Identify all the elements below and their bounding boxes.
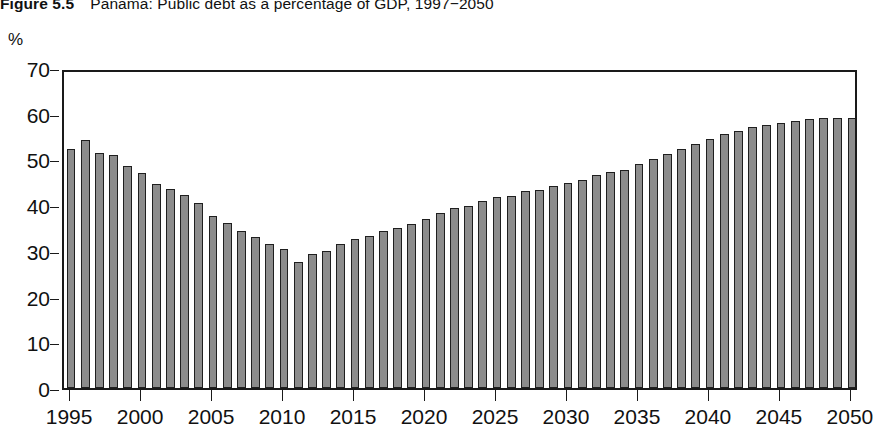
bar <box>734 131 743 388</box>
bar <box>578 180 587 388</box>
bar <box>95 153 104 388</box>
bar <box>166 189 175 388</box>
x-axis-tick-label: 2045 <box>756 404 803 430</box>
bar <box>777 123 786 388</box>
bar <box>606 172 615 388</box>
bar <box>564 183 573 388</box>
bar <box>748 127 757 388</box>
bar <box>407 224 416 388</box>
plot-area <box>62 70 857 390</box>
x-axis-tick-label: 2000 <box>117 404 164 430</box>
x-axis-tick <box>708 390 709 401</box>
x-axis-tick <box>140 390 141 401</box>
y-axis-tick-label: 0 <box>4 379 50 400</box>
x-axis-tick <box>495 390 496 401</box>
y-axis-tick-label: 40 <box>4 196 50 217</box>
y-axis-tick-label: 70 <box>4 59 50 80</box>
bar <box>535 190 544 388</box>
y-axis-tick <box>50 207 59 208</box>
x-axis-tick <box>282 390 283 401</box>
y-axis-tick <box>50 390 59 391</box>
bar <box>691 144 700 388</box>
bar <box>194 203 203 388</box>
y-axis-tick <box>50 299 59 300</box>
x-axis-tick <box>779 390 780 401</box>
bar <box>109 155 118 388</box>
bar <box>81 140 90 388</box>
y-axis-tick <box>50 253 59 254</box>
bar <box>819 118 828 388</box>
y-axis-tick <box>50 344 59 345</box>
figure-title: Figure 5.5Panama: Public debt as a perce… <box>0 0 865 15</box>
figure-number: Figure 5.5 <box>0 0 74 12</box>
bar <box>635 164 644 388</box>
x-axis-tick-label: 2025 <box>472 404 519 430</box>
bar <box>351 239 360 388</box>
bar <box>706 139 715 388</box>
x-axis-labels: 1995200020052010201520202025203020352040… <box>0 404 865 434</box>
x-axis-tick-label: 2010 <box>259 404 306 430</box>
y-axis-tick <box>50 116 59 117</box>
x-axis-tick-label: 2035 <box>614 404 661 430</box>
bar <box>464 206 473 388</box>
bar <box>123 166 132 388</box>
bar <box>805 119 814 388</box>
y-axis-tick <box>50 161 59 162</box>
figure-title-text: Panama: Public debt as a percentage of G… <box>90 0 494 12</box>
bar <box>237 231 246 388</box>
x-axis-tick <box>353 390 354 401</box>
bar <box>393 228 402 388</box>
x-axis-tick <box>850 390 851 401</box>
bar <box>649 159 658 388</box>
bar <box>833 118 842 388</box>
bar <box>436 213 445 388</box>
bar <box>663 154 672 389</box>
x-axis-tick <box>69 390 70 401</box>
x-axis-tick-label: 2050 <box>827 404 873 430</box>
bar <box>265 244 274 388</box>
y-axis-tick-label: 50 <box>4 150 50 171</box>
bar <box>138 173 147 388</box>
bar <box>620 170 629 389</box>
bar <box>450 208 459 388</box>
bar <box>848 118 856 388</box>
x-axis-tick-label: 2030 <box>543 404 590 430</box>
bar <box>308 254 317 388</box>
x-axis-tick <box>566 390 567 401</box>
x-axis-tick <box>637 390 638 401</box>
bar <box>478 201 487 388</box>
x-axis-ticks <box>62 390 857 402</box>
bar <box>549 186 558 389</box>
x-axis-tick <box>211 390 212 401</box>
bar <box>677 149 686 388</box>
x-axis-tick-label: 2015 <box>330 404 377 430</box>
x-axis-tick-label: 1995 <box>46 404 93 430</box>
bar <box>209 216 218 388</box>
bar <box>180 195 189 388</box>
bar <box>67 149 76 388</box>
y-axis-unit-label: % <box>8 30 23 50</box>
bars-container <box>64 72 855 388</box>
bar <box>379 231 388 388</box>
bar <box>280 249 289 388</box>
x-axis-tick <box>424 390 425 401</box>
bar <box>251 237 260 388</box>
bar <box>762 125 771 388</box>
bar <box>422 219 431 388</box>
y-axis-tick-label: 20 <box>4 288 50 309</box>
bar <box>294 262 303 388</box>
bar <box>592 175 601 388</box>
y-axis-tick <box>50 70 59 71</box>
y-axis-tick-label: 10 <box>4 333 50 354</box>
bar <box>365 236 374 388</box>
bar <box>336 244 345 388</box>
bar <box>507 196 516 388</box>
x-axis-tick-label: 2020 <box>401 404 448 430</box>
y-axis-tick-label: 60 <box>4 105 50 126</box>
bar <box>521 191 530 388</box>
bar <box>223 223 232 388</box>
x-axis-tick-label: 2040 <box>685 404 732 430</box>
bar <box>152 184 161 388</box>
bar <box>493 197 502 388</box>
